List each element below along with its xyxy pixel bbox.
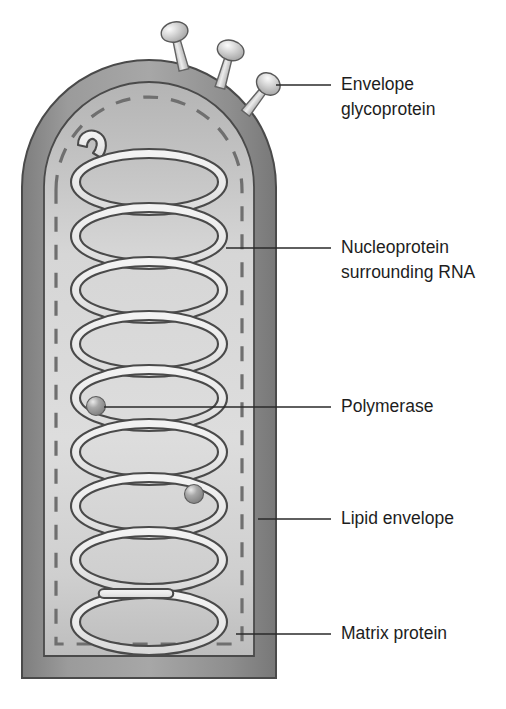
label-envelope-glycoprotein-line1: Envelope xyxy=(341,74,414,94)
label-matrix-protein: Matrix protein xyxy=(341,623,447,643)
spike-head xyxy=(159,19,190,45)
label-polymerase: Polymerase xyxy=(341,396,433,416)
labels-group: Envelope glycoprotein Nucleoprotein surr… xyxy=(341,74,476,643)
virion-diagram: Envelope glycoprotein Nucleoprotein surr… xyxy=(0,0,506,709)
polymerase-particle xyxy=(185,485,204,504)
label-nucleoprotein-line2: surrounding RNA xyxy=(341,262,476,282)
polymerase-particle xyxy=(87,397,106,416)
label-envelope-glycoprotein-line2: glycoprotein xyxy=(341,99,435,119)
helix-end-hook xyxy=(99,589,174,598)
label-nucleoprotein-line1: Nucleoprotein xyxy=(341,237,449,257)
virion-figure-svg: Envelope glycoprotein Nucleoprotein surr… xyxy=(0,0,506,709)
label-lipid-envelope: Lipid envelope xyxy=(341,508,454,528)
spike-head xyxy=(215,37,246,64)
